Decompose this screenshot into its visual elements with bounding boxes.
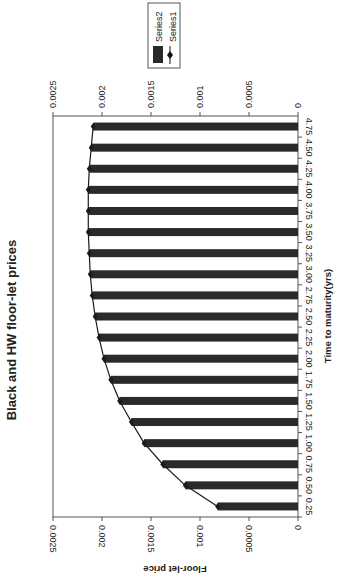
category-tick-label: 2.50 <box>304 308 314 326</box>
value-tick-label-top: 0.0005 <box>244 80 254 108</box>
bar <box>89 165 298 173</box>
value-tick-label-top: 0.0015 <box>146 80 156 108</box>
value-tick-label-bottom: 0.0005 <box>244 525 254 553</box>
bar <box>131 418 298 426</box>
value-tick-label-top: 0.001 <box>195 85 205 108</box>
category-tick-label: 1.50 <box>304 392 314 410</box>
category-tick-label: 4.75 <box>304 118 314 136</box>
category-tick-label: 2.75 <box>304 287 314 305</box>
bar <box>111 376 298 384</box>
value-tick-label-bottom: 0.0015 <box>146 525 156 553</box>
bar <box>95 313 298 321</box>
floorlet-price-chart: Black and HW floor-let prices 000.00050.… <box>0 0 346 582</box>
bar <box>218 502 298 510</box>
value-tick-label-bottom: 0.001 <box>195 525 205 548</box>
bar <box>88 228 298 236</box>
category-tick-label: 3.75 <box>304 202 314 220</box>
bar <box>99 334 298 342</box>
bar <box>89 249 298 257</box>
category-axis: 0.250.500.751.001.251.501.752.002.252.50… <box>298 118 314 517</box>
category-tick-label: 2.25 <box>304 329 314 347</box>
bar <box>185 481 298 489</box>
bar <box>88 186 298 194</box>
bar <box>93 123 298 131</box>
category-tick-label: 1.75 <box>304 371 314 389</box>
legend-series2-label: Series2 <box>154 11 164 42</box>
bar <box>163 460 298 468</box>
bar <box>92 291 298 299</box>
category-tick-label: 4.00 <box>304 181 314 199</box>
bar <box>90 270 298 278</box>
category-tick-label: 3.25 <box>304 244 314 262</box>
bar <box>120 397 298 405</box>
legend-series2-swatch <box>153 46 163 63</box>
value-tick-label-top: 0 <box>293 103 303 108</box>
value-tick-label-bottom: 0.0025 <box>48 525 58 553</box>
category-tick-label: 4.50 <box>304 139 314 157</box>
bar <box>104 355 298 363</box>
x-axis-title: Time to maturity(yrs) <box>322 269 333 363</box>
category-tick-label: 0.50 <box>304 477 314 495</box>
category-tick-label: 3.00 <box>304 266 314 284</box>
value-tick-label-bottom: 0.002 <box>97 525 107 548</box>
category-tick-label: 4.25 <box>304 160 314 178</box>
chart-title: Black and HW floor-let prices <box>4 240 19 421</box>
bar <box>91 144 298 152</box>
bar <box>144 439 298 447</box>
category-tick-label: 0.75 <box>304 455 314 473</box>
legend: Series2 Series1 <box>148 3 180 68</box>
category-tick-label: 1.25 <box>304 413 314 431</box>
value-tick-label-top: 0.002 <box>97 85 107 108</box>
legend-series1-label: Series1 <box>168 11 178 42</box>
y-axis-title: Floor-let price <box>143 564 206 575</box>
value-tick-label-top: 0.0025 <box>48 80 58 108</box>
category-tick-label: 1.00 <box>304 434 314 452</box>
category-tick-label: 3.50 <box>304 223 314 241</box>
value-tick-label-bottom: 0 <box>293 525 303 530</box>
category-tick-label: 2.00 <box>304 350 314 368</box>
bar <box>88 207 298 215</box>
category-tick-label: 0.25 <box>304 498 314 516</box>
